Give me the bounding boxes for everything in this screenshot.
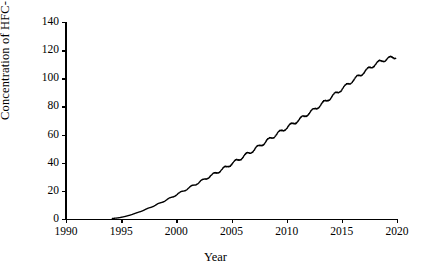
x-axis-tick-label: 2005 bbox=[220, 226, 243, 238]
y-axis-tick-label: 120 bbox=[42, 44, 59, 56]
y-axis-tick-label: 100 bbox=[42, 73, 59, 85]
series-line-hfc134a bbox=[112, 56, 395, 218]
y-axis-tick bbox=[62, 78, 66, 79]
x-axis-tick bbox=[232, 219, 233, 223]
y-axis-tick bbox=[62, 22, 66, 23]
y-axis-title: Concentration of HFC-134a (ppt) bbox=[0, 0, 13, 120]
y-axis-tick-label: 60 bbox=[48, 129, 60, 141]
y-axis-tick bbox=[62, 163, 66, 164]
x-axis-tick-label: 2000 bbox=[165, 226, 188, 238]
y-axis-tick bbox=[62, 191, 66, 192]
x-axis-tick-label: 1995 bbox=[110, 226, 133, 238]
y-axis-tick bbox=[62, 135, 66, 136]
y-axis-tick-label: 0 bbox=[53, 213, 59, 225]
x-axis-tick bbox=[121, 219, 122, 223]
x-axis-tick bbox=[397, 219, 398, 223]
x-axis-tick-label: 2020 bbox=[386, 226, 409, 238]
plot-area: 0204060801001201401990199520002005201020… bbox=[66, 22, 397, 219]
x-axis-tick-label: 2010 bbox=[275, 226, 298, 238]
y-axis-tick-label: 80 bbox=[48, 101, 60, 113]
y-axis-tick-label: 140 bbox=[42, 16, 59, 28]
x-axis-tick-label: 1990 bbox=[55, 226, 78, 238]
series-hfc134a bbox=[66, 22, 397, 219]
x-axis-tick-label: 2015 bbox=[330, 226, 353, 238]
y-axis-tick bbox=[62, 50, 66, 51]
figure-hfc134a-concentration: 0204060801001201401990199520002005201020… bbox=[0, 0, 431, 280]
y-axis-tick bbox=[62, 106, 66, 107]
x-axis-tick bbox=[342, 219, 343, 223]
y-axis-tick-label: 40 bbox=[48, 157, 60, 169]
x-axis-tick bbox=[66, 219, 67, 223]
x-axis-tick bbox=[176, 219, 177, 223]
x-axis-tick bbox=[287, 219, 288, 223]
y-axis-tick-label: 20 bbox=[48, 185, 60, 197]
x-axis-title: Year bbox=[0, 250, 431, 265]
